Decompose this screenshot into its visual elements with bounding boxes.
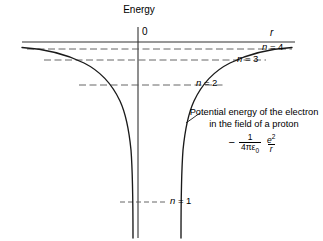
level-value: = 2: [204, 77, 217, 88]
level-label-n2: n = 2: [196, 78, 217, 88]
formula-symbol-r: r: [270, 144, 273, 154]
level-value: = 4: [270, 41, 283, 52]
potential-energy-annotation: Potential energy of the electron in the …: [186, 107, 322, 155]
formula-numerator-e-squared: e2: [265, 134, 277, 145]
level-symbol-n: n: [170, 195, 175, 206]
formula-exponent-two: 2: [272, 133, 276, 140]
formula-denominator-r: r: [268, 144, 275, 154]
level-label-n1: n = 1: [170, 196, 191, 206]
annotation-line-1: Potential energy of the electron: [186, 107, 322, 119]
level-label-n3: n = 3: [237, 54, 258, 64]
formula-den-subscript: 0: [255, 147, 259, 154]
level-symbol-n: n: [237, 53, 242, 64]
formula-minus-sign: −: [229, 136, 235, 150]
potential-curve-left: [22, 48, 133, 239]
level-label-n4: n = 4: [262, 42, 283, 52]
level-value: = 1: [178, 195, 191, 206]
formula-numerator-one: 1: [246, 133, 255, 142]
formula-fraction-esq-over-r: e2 r: [265, 134, 277, 155]
annotation-line-2: in the field of a proton: [186, 119, 322, 131]
r-axis-label: r: [270, 28, 273, 39]
formula-denominator-4pi-eps0: 4πε0: [239, 142, 261, 155]
energy-axis-label: Energy: [123, 5, 155, 16]
potential-energy-diagram: Energy 0 r n = 4 n = 3 n = 2 n = 1 Poten…: [0, 0, 323, 241]
formula-den-text: 4πε: [241, 142, 255, 152]
level-value: = 3: [245, 53, 258, 64]
level-symbol-n: n: [196, 77, 201, 88]
coulomb-formula: − 1 4πε0 e2 r: [186, 133, 322, 154]
formula-fraction-coefficient: 1 4πε0: [239, 133, 261, 154]
level-symbol-n: n: [262, 41, 267, 52]
origin-label: 0: [142, 27, 148, 38]
